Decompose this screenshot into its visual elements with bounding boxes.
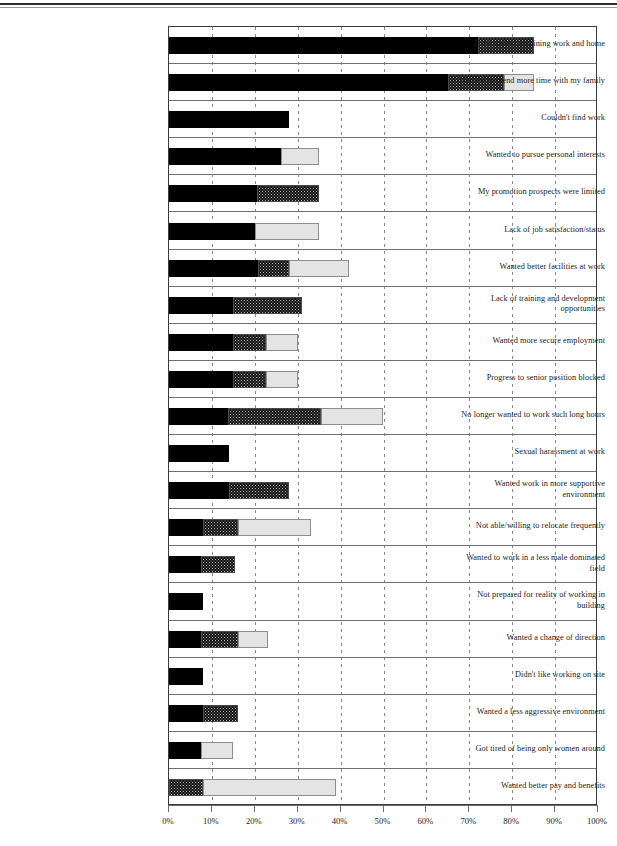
- bar-segment-series-3: [238, 631, 268, 648]
- bar-segment-series-1: [169, 74, 448, 91]
- x-axis-tick: [168, 805, 169, 812]
- category-label: Wanted a less aggressive environment: [455, 707, 605, 718]
- row-separator: [169, 694, 596, 695]
- category-label: Wanted better pay and benefits: [455, 781, 605, 792]
- bar-segment-series-1: [169, 482, 229, 499]
- bar-segment-series-3: [281, 148, 320, 165]
- x-axis-tick: [383, 805, 384, 812]
- row-separator: [169, 63, 596, 64]
- bar-segment-series-2: [203, 519, 237, 536]
- row-separator: [169, 211, 596, 212]
- stacked-bar-chart: Difficulties combining work and homeWant…: [0, 0, 617, 846]
- bar-segment-series-3: [255, 223, 319, 240]
- row-separator: [169, 731, 596, 732]
- bar-segment-series-3: [266, 334, 298, 351]
- bar-segment-series-2: [233, 297, 302, 314]
- bar-segment-series-2: [229, 482, 289, 499]
- x-axis-tick: [297, 805, 298, 812]
- x-axis-tick-label: 80%: [488, 816, 534, 826]
- category-label: Lack of job satisfaction/status: [455, 225, 605, 236]
- bar-segment-series-1: [169, 37, 478, 54]
- row-separator: [169, 137, 596, 138]
- x-axis-tick-label: 70%: [445, 816, 491, 826]
- x-axis-tick: [254, 805, 255, 812]
- bar-segment-series-3: [201, 742, 233, 759]
- x-axis-tick-label: 40%: [317, 816, 363, 826]
- bar-segment-series-2: [201, 556, 235, 573]
- x-axis-tick-label: 20%: [231, 816, 277, 826]
- bar-segment-series-1: [169, 519, 203, 536]
- row-separator: [169, 100, 596, 101]
- row-separator: [169, 397, 596, 398]
- category-label: Not prepared for reality of working in b…: [455, 590, 605, 611]
- bar-segment-series-2: [233, 334, 265, 351]
- bar-segment-series-3: [289, 260, 349, 277]
- category-label: Wanted to work in a less male dominated …: [455, 553, 605, 574]
- row-separator: [169, 657, 596, 658]
- bar-segment-series-1: [169, 742, 201, 759]
- bar-segment-series-3: [238, 519, 311, 536]
- category-label: Wanted better facilities at work: [455, 262, 605, 273]
- bar-segment-series-2: [257, 185, 319, 202]
- row-separator: [169, 545, 596, 546]
- row-separator: [169, 508, 596, 509]
- row-separator: [169, 582, 596, 583]
- category-label: Wanted work in more supportive environme…: [455, 479, 605, 500]
- x-axis-tick: [511, 805, 512, 812]
- category-label: Wanted a change of direction: [455, 633, 605, 644]
- bar-segment-series-1: [169, 705, 203, 722]
- bar-segment-series-1: [169, 408, 228, 425]
- bar-segment-series-2: [228, 408, 322, 425]
- bar-segment-series-1: [169, 631, 201, 648]
- category-label: No longer wanted to work such long hours: [455, 410, 605, 421]
- bar-segment-series-1: [169, 297, 233, 314]
- bar-segment-series-1: [169, 111, 289, 128]
- bar-segment-series-2: [203, 705, 237, 722]
- bar-segment-series-2: [258, 260, 289, 277]
- row-separator: [169, 249, 596, 250]
- bar-segment-series-1: [169, 593, 203, 610]
- x-axis-tick-label: 100%: [574, 816, 617, 826]
- category-label: Got tired of being only women around: [455, 744, 605, 755]
- x-axis-tick-label: 90%: [531, 816, 577, 826]
- category-label: Progress to senior position blocked: [455, 373, 605, 384]
- category-label: Difficulties combining work and home: [455, 39, 605, 50]
- row-separator: [169, 768, 596, 769]
- category-label: Wanted to spend more time with my family: [455, 76, 605, 87]
- row-separator: [169, 360, 596, 361]
- category-label: Sexual harassment at work: [455, 447, 605, 458]
- category-label: Couldn't find work: [455, 113, 605, 124]
- x-axis-tick-label: 60%: [402, 816, 448, 826]
- category-label: Wanted to pursue personal interests: [455, 150, 605, 161]
- row-separator: [169, 286, 596, 287]
- category-label: Didn't like working on site: [455, 670, 605, 681]
- bar-segment-series-1: [169, 185, 257, 202]
- bar-segment-series-3: [321, 408, 383, 425]
- x-axis-tick-label: 50%: [360, 816, 406, 826]
- bar-segment-series-1: [169, 668, 203, 685]
- x-axis-tick: [554, 805, 555, 812]
- x-axis-tick: [597, 805, 598, 812]
- bar-segment-series-2: [169, 779, 203, 796]
- x-axis-tick: [425, 805, 426, 812]
- bar-segment-series-1: [169, 260, 258, 277]
- category-label: Lack of training and development opportu…: [455, 294, 605, 315]
- x-axis-tick: [340, 805, 341, 812]
- row-separator: [169, 620, 596, 621]
- bar-segment-series-1: [169, 371, 233, 388]
- bar-segment-series-1: [169, 334, 233, 351]
- bar-segment-series-1: [169, 223, 255, 240]
- bar-segment-series-3: [203, 779, 336, 796]
- x-axis-tick-label: 10%: [188, 816, 234, 826]
- bar-segment-series-3: [266, 371, 298, 388]
- x-axis-tick-label: 0%: [145, 816, 191, 826]
- category-label: My promotion prospects were limited: [455, 187, 605, 198]
- x-axis-tick-label: 30%: [274, 816, 320, 826]
- row-separator: [169, 434, 596, 435]
- bar-segment-series-1: [169, 556, 201, 573]
- x-axis-tick: [211, 805, 212, 812]
- category-label: Not able/willing to relocate frequently: [455, 521, 605, 532]
- bar-segment-series-2: [201, 631, 237, 648]
- x-axis-tick: [468, 805, 469, 812]
- row-separator: [169, 471, 596, 472]
